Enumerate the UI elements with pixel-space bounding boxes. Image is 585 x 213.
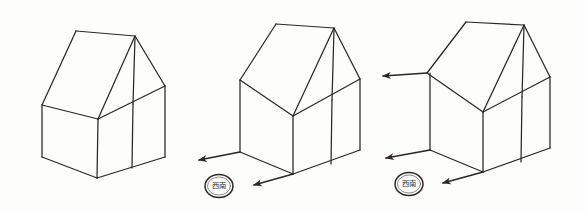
roof-eave-front-2 xyxy=(240,80,293,116)
gable-edge-1 xyxy=(133,37,135,104)
roof-ridge-3 xyxy=(466,22,524,25)
roof-ridge-2 xyxy=(276,24,334,28)
sketch-drawing xyxy=(0,0,585,213)
house-sketch-2 xyxy=(240,24,360,174)
roof-hip-front-2 xyxy=(293,28,334,116)
roof-ridge-1 xyxy=(76,31,135,36)
roof-left-slope-3 xyxy=(427,22,466,73)
roof-eave-right-2 xyxy=(293,79,360,116)
gable-edge-2 xyxy=(332,29,334,100)
wall-front-corner-edge-1 xyxy=(97,119,98,178)
roof-eave-front-3 xyxy=(427,73,483,112)
base-left-3 xyxy=(430,150,483,172)
wall-gable-seam-3 xyxy=(521,97,522,162)
stamp-ring-2 xyxy=(205,175,233,198)
roof-eave-right-3 xyxy=(483,77,550,112)
wall-gable-seam-2 xyxy=(331,100,332,164)
house-sketch-3 xyxy=(427,22,550,172)
direction-arrows-3 xyxy=(383,73,483,183)
wall-gable-seam-1 xyxy=(132,104,133,168)
roof-hip-front-1 xyxy=(98,36,135,119)
roof-eave-front-1 xyxy=(42,105,98,119)
base-right-2 xyxy=(293,150,360,174)
roof-eave-right-1 xyxy=(98,86,165,119)
roof-left-slope-2 xyxy=(240,24,276,80)
roof-left-slope-1 xyxy=(42,31,76,105)
base-right-3 xyxy=(483,148,550,172)
roof-hip-front-3 xyxy=(483,25,524,112)
gable-edge-3 xyxy=(522,26,524,97)
stamp-ring-3 xyxy=(395,173,423,196)
arrow-left-base-2 xyxy=(199,152,240,160)
base-right-1 xyxy=(97,157,165,178)
arrow-left-eave-3 xyxy=(383,73,427,76)
arrow-left-base-3 xyxy=(386,150,430,158)
house-sketch-1 xyxy=(42,31,165,178)
sketch-canvas: 西南西南 xyxy=(0,0,585,213)
arrow-front-base-3 xyxy=(443,172,483,183)
base-left-1 xyxy=(42,157,97,178)
base-left-2 xyxy=(240,152,293,174)
roof-right-slope-2 xyxy=(334,28,360,79)
arrow-front-base-2 xyxy=(254,174,293,185)
roof-right-slope-1 xyxy=(135,36,165,86)
roof-right-slope-3 xyxy=(524,25,550,77)
